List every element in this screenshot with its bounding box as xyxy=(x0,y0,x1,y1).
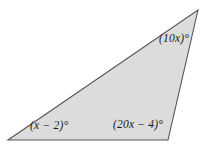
geometry-figure: (10x)° (x − 2)° (20x − 4)° xyxy=(0,0,215,147)
angle-label-top-right: (10x)° xyxy=(159,33,189,45)
angle-label-bottom-right: (20x − 4)° xyxy=(113,119,163,131)
angle-label-bottom-left: (x − 2)° xyxy=(30,120,68,132)
